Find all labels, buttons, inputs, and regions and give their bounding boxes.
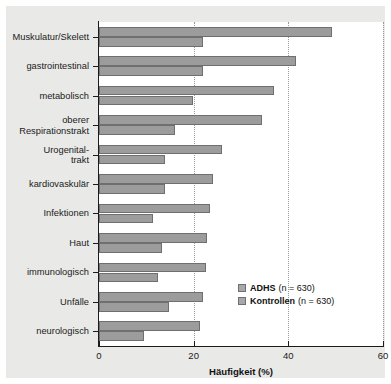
chart-figure: 0204060 Muskulatur/Skelettgastrointestin…: [0, 0, 391, 384]
bar-kontrollen-8: [99, 273, 158, 283]
x-tick: [194, 341, 195, 347]
legend-item-kontrollen: Kontrollen (n = 630): [238, 295, 334, 308]
x-tick: [383, 341, 384, 347]
bar-kontrollen-10: [99, 331, 144, 341]
category-label: Muskulatur/Skelett: [13, 31, 89, 42]
legend-count-adhs: (n = 630): [279, 282, 315, 295]
x-tick: [288, 341, 289, 347]
x-axis-line: [98, 346, 384, 347]
legend-label-kontrollen: Kontrollen: [250, 295, 295, 308]
legend-swatch-adhs: [238, 284, 246, 292]
bar-adhs-4: [99, 145, 222, 155]
x-tick-label: 0: [96, 350, 101, 361]
bar-adhs-5: [99, 174, 213, 184]
bar-kontrollen-5: [99, 184, 165, 194]
legend-swatch-kontrollen: [238, 297, 246, 305]
category-label: Haut: [69, 238, 89, 249]
legend-label-adhs: ADHS: [250, 282, 276, 295]
chart-panel: 0204060 Muskulatur/Skelettgastrointestin…: [6, 6, 385, 378]
category-label: gastrointestinal: [26, 61, 89, 72]
x-tick: [99, 341, 100, 347]
bar-kontrollen-0: [99, 37, 203, 47]
category-label: neurologisch: [36, 326, 89, 337]
category-label: Unfälle: [60, 297, 89, 308]
legend-item-adhs: ADHS (n = 630): [238, 282, 334, 295]
bar-adhs-6: [99, 204, 210, 214]
category-label: Infektionen: [44, 208, 90, 219]
x-axis-title: Häufigkeit (%): [99, 366, 383, 377]
bar-kontrollen-3: [99, 125, 175, 135]
bar-adhs-2: [99, 86, 274, 96]
bar-kontrollen-2: [99, 96, 193, 106]
x-tick-label: 40: [283, 350, 294, 361]
bar-adhs-8: [99, 263, 206, 273]
bar-adhs-0: [99, 27, 332, 37]
x-tick-label: 60: [378, 350, 389, 361]
bar-kontrollen-7: [99, 243, 162, 253]
bar-adhs-7: [99, 233, 207, 243]
bar-adhs-9: [99, 292, 203, 302]
bar-kontrollen-1: [99, 66, 203, 76]
category-label: oberer Respirationstrakt: [19, 115, 89, 136]
bar-kontrollen-4: [99, 155, 165, 165]
gridline: [383, 22, 385, 346]
category-label: kardiovaskulär: [29, 179, 89, 190]
bar-adhs-10: [99, 321, 200, 331]
chart-legend: ADHS (n = 630) Kontrollen (n = 630): [238, 282, 334, 307]
bar-adhs-1: [99, 56, 296, 66]
category-label: Urogenital- trakt: [44, 144, 89, 165]
legend-count-kontrollen: (n = 630): [298, 295, 334, 308]
bar-kontrollen-6: [99, 214, 153, 224]
category-label: metabolisch: [39, 90, 89, 101]
category-label: immunologisch: [27, 267, 89, 278]
bar-kontrollen-9: [99, 302, 169, 312]
bar-adhs-3: [99, 115, 262, 125]
x-tick-label: 20: [188, 350, 199, 361]
